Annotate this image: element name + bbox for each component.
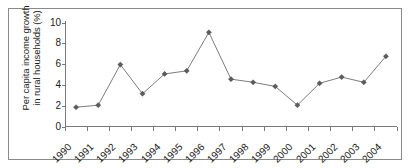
- series-line: [76, 32, 386, 107]
- x-axis-tick-mark: [352, 127, 353, 131]
- x-axis-tick-mark: [286, 127, 287, 131]
- y-axis-title-line-1: Per capita income growth: [20, 6, 32, 111]
- x-axis-tick-mark: [397, 127, 398, 131]
- x-axis-tick-mark: [264, 127, 265, 131]
- data-point: [206, 30, 211, 35]
- y-axis-tick-label: 6: [55, 58, 61, 69]
- data-point: [73, 105, 78, 110]
- x-axis-tick-label: 2002: [316, 141, 340, 165]
- x-axis-tick-mark: [65, 127, 66, 131]
- x-axis-tick-mark: [308, 127, 309, 131]
- chart-frame-border: Per capita income growth in rural househ…: [8, 8, 402, 160]
- x-axis-tick-label: 1991: [72, 141, 96, 165]
- x-axis-tick-mark: [109, 127, 110, 131]
- y-axis-title-line-2: in rural households (%): [31, 10, 43, 105]
- chart-figure: Per capita income growth in rural househ…: [0, 0, 410, 168]
- x-axis-tick-label: 1990: [50, 141, 74, 165]
- x-axis-tick-label: 2000: [271, 141, 295, 165]
- x-axis-tick-label: 1992: [94, 141, 118, 165]
- y-axis-tick-label: 4: [55, 79, 61, 90]
- y-axis-title: Per capita income growth in rural househ…: [16, 2, 46, 114]
- x-axis-tick-mark: [153, 127, 154, 131]
- x-axis-tick-label: 1993: [116, 141, 140, 165]
- y-axis-tick-label: 8: [55, 37, 61, 48]
- x-axis-tick-label: 1996: [183, 141, 207, 165]
- plot-area: 0246810 19901991199219931994199519961997…: [65, 23, 397, 127]
- x-axis-tick-mark: [175, 127, 176, 131]
- x-axis-tick-mark: [87, 127, 88, 131]
- data-point: [228, 77, 233, 82]
- x-axis-tick-label: 2004: [360, 141, 384, 165]
- x-axis-tick-mark: [330, 127, 331, 131]
- x-axis-tick-mark: [131, 127, 132, 131]
- y-axis-tick-label: 10: [50, 17, 61, 28]
- x-axis-tick-label: 1998: [227, 141, 251, 165]
- x-axis-tick-mark: [197, 127, 198, 131]
- y-axis-tick-label: 0: [55, 121, 61, 132]
- data-series: [65, 23, 397, 127]
- data-point: [184, 68, 189, 73]
- x-axis-tick-label: 1997: [205, 141, 229, 165]
- x-axis-tick-mark: [374, 127, 375, 131]
- data-point: [339, 74, 344, 79]
- x-axis-tick-label: 2001: [294, 141, 318, 165]
- data-point: [96, 103, 101, 108]
- x-axis-tick-label: 1999: [249, 141, 273, 165]
- x-axis-tick-mark: [219, 127, 220, 131]
- y-axis-tick-label: 2: [55, 100, 61, 111]
- x-axis-tick-mark: [242, 127, 243, 131]
- series-markers: [73, 30, 388, 110]
- x-axis-tick-label: 1994: [139, 141, 163, 165]
- x-axis-tick-label: 1995: [161, 141, 185, 165]
- x-axis-tick-label: 2003: [338, 141, 362, 165]
- data-point: [251, 80, 256, 85]
